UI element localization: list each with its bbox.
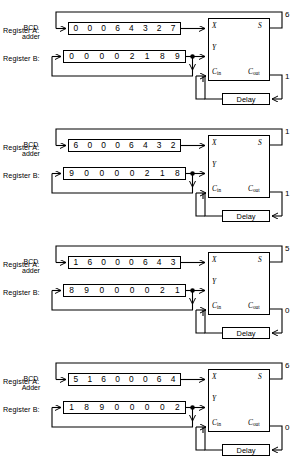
port-y-label: Y [212, 394, 216, 403]
register-a-digit: 3 [157, 141, 162, 149]
register-a-digit: 3 [143, 24, 148, 32]
adder-stage-block: Register A:Register B:1600064389000021BC… [0, 234, 296, 351]
register-a-digit: 4 [129, 24, 134, 32]
register-a-box: 00064327 [68, 22, 181, 35]
register-b-digit: 0 [115, 286, 120, 294]
register-a-box: 51600064 [68, 373, 181, 386]
register-b-digit: 8 [160, 52, 165, 60]
port-s-label: S [258, 372, 262, 381]
bcd-adder-label-line2: adder [0, 267, 62, 276]
register-a-digit: 0 [87, 24, 92, 32]
adder-stage-block: Register A:Register B:0006432700002189BC… [0, 0, 296, 117]
delay-box: Delay [222, 93, 270, 105]
register-a-digit: 4 [171, 375, 176, 383]
register-b-digit: 2 [145, 169, 150, 177]
register-b-digit: 0 [84, 169, 89, 177]
register-a-digit: 0 [129, 375, 134, 383]
register-a-digit: 0 [115, 141, 120, 149]
bcd-adder-label: BCDadder [0, 141, 62, 158]
bcd-adder-label-line1: BCD [0, 141, 62, 150]
register-a-box: 16000643 [68, 256, 181, 269]
register-b-digit: 1 [145, 52, 150, 60]
bcd-serial-adder-diagram: Register A:Register B:0006432700002189BC… [0, 0, 296, 471]
bcd-adder-label-line1: BCD [0, 258, 62, 267]
port-s-label-main: S [258, 138, 262, 147]
register-a-digit: 1 [87, 375, 92, 383]
bcd-adder-label-line1: BCD [0, 24, 62, 33]
register-a-digit: 0 [87, 141, 92, 149]
bcd-adder-label: BCDadder [0, 24, 62, 41]
delay-label: Delay [237, 212, 256, 221]
sum-output-value: 6 [285, 361, 289, 370]
port-x-label-main: X [212, 21, 217, 30]
register-b-digit: 1 [175, 286, 180, 294]
carry-output-value: 1 [285, 189, 289, 198]
adder-stage-block: Register A:Register B:5160006418900002BC… [0, 351, 296, 468]
port-y-label-main: Y [212, 277, 216, 286]
register-b-digit: 8 [69, 286, 74, 294]
register-a-digit: 7 [171, 24, 176, 32]
port-x-label-main: X [212, 255, 217, 264]
register-a-digit: 0 [101, 24, 106, 32]
register-b-digit: 2 [160, 286, 165, 294]
register-b-digit: 0 [115, 52, 120, 60]
register-a-digit: 6 [115, 24, 120, 32]
port-s-label-main: S [258, 21, 262, 30]
register-a-digit: 4 [157, 258, 162, 266]
port-cout-label: Cout [248, 418, 260, 427]
register-a-digit: 3 [171, 258, 176, 266]
register-b-digit: 0 [160, 403, 165, 411]
register-a-digit: 0 [74, 24, 79, 32]
port-s-label-main: S [258, 372, 262, 381]
port-y-label-main: Y [212, 394, 216, 403]
port-cout-subscript: out [253, 421, 260, 427]
delay-box: Delay [222, 327, 270, 339]
register-b-digit: 0 [99, 286, 104, 294]
register-b-digit: 0 [84, 52, 89, 60]
register-b-label: Register B: [3, 288, 40, 297]
port-cin-subscript: in [217, 70, 221, 76]
register-b-digit: 2 [175, 403, 180, 411]
register-a-digit: 6 [157, 375, 162, 383]
register-a-digit: 2 [157, 24, 162, 32]
port-cin-label: Cin [212, 301, 221, 310]
register-a-box: 60006432 [68, 139, 181, 152]
port-x-label-main: X [212, 372, 217, 381]
register-b-label: Register B: [3, 171, 40, 180]
port-cin-subscript: in [217, 304, 221, 310]
register-a-digit: 6 [101, 375, 106, 383]
bcd-adder-label-line2: adder [0, 150, 62, 159]
register-b-digit: 8 [175, 169, 180, 177]
port-y-label-main: Y [212, 160, 216, 169]
register-a-digit: 6 [87, 258, 92, 266]
bcd-adder-label-line2: Adder [0, 384, 62, 393]
register-a-digit: 2 [171, 141, 176, 149]
register-b-box: 89000021 [63, 284, 186, 297]
register-a-digit: 6 [129, 141, 134, 149]
register-a-digit: 0 [143, 375, 148, 383]
port-x-label: X [212, 138, 217, 147]
register-a-digit: 0 [115, 258, 120, 266]
register-b-digit: 0 [99, 169, 104, 177]
register-a-digit: 0 [129, 258, 134, 266]
bcd-adder-label-line1: BCD [0, 375, 62, 384]
carry-output-value: 0 [285, 423, 289, 432]
sum-output-value: 5 [285, 244, 289, 253]
port-x-label: X [212, 21, 217, 30]
bcd-adder-label: BCDadder [0, 258, 62, 275]
port-s-label: S [258, 255, 262, 264]
register-b-box: 18900002 [63, 401, 186, 414]
port-cout-label: Cout [248, 301, 260, 310]
delay-box: Delay [222, 444, 270, 456]
port-cout-subscript: out [253, 304, 260, 310]
register-b-label: Register B: [3, 405, 40, 414]
register-b-digit: 8 [84, 403, 89, 411]
register-a-digit: 1 [74, 258, 79, 266]
delay-box: Delay [222, 210, 270, 222]
register-b-digit: 1 [160, 169, 165, 177]
register-b-digit: 0 [115, 169, 120, 177]
register-b-digit: 9 [175, 52, 180, 60]
port-x-label: X [212, 255, 217, 264]
port-y-label: Y [212, 277, 216, 286]
port-y-label-main: Y [212, 43, 216, 52]
